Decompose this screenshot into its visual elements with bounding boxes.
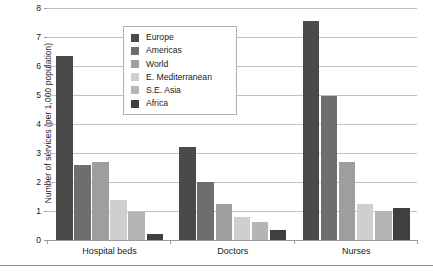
y-tick-label: 2	[36, 178, 41, 187]
bar-group	[303, 8, 410, 240]
y-tick-label: 7	[36, 33, 41, 42]
legend-swatch-icon	[131, 86, 139, 94]
legend-item: Americas	[124, 44, 236, 57]
y-tick-mark	[44, 66, 47, 67]
legend-item-label: World	[146, 60, 168, 69]
bar	[56, 56, 73, 240]
legend-item: S.E. Asia	[124, 84, 236, 97]
bar	[252, 222, 269, 240]
footer-rule	[0, 265, 433, 266]
y-tick-label: 4	[36, 120, 41, 129]
y-tick-mark	[44, 124, 47, 125]
bar	[375, 211, 392, 240]
bar	[216, 204, 233, 240]
y-tick-mark	[44, 182, 47, 183]
legend-swatch-icon	[131, 60, 139, 68]
bar	[179, 147, 196, 240]
y-tick-mark	[44, 211, 47, 212]
legend-item-label: E. Mediterranean	[146, 73, 212, 82]
y-tick-mark	[44, 95, 47, 96]
bar	[393, 208, 410, 240]
legend-item: World	[124, 57, 236, 70]
x-axis-label-hospital-beds: Hospital beds	[82, 246, 137, 256]
bar	[147, 234, 164, 240]
legend-swatch-icon	[131, 34, 139, 42]
bar	[357, 204, 374, 240]
bar	[128, 212, 145, 240]
y-tick-label: 0	[36, 236, 41, 245]
legend-item: Africa	[124, 97, 236, 110]
bar	[197, 182, 214, 240]
bar	[303, 21, 320, 240]
bar	[92, 162, 109, 240]
y-tick-label: 3	[36, 149, 41, 158]
y-tick-label: 6	[36, 62, 41, 71]
x-axis-baseline	[47, 240, 417, 241]
legend-item-label: S.E. Asia	[146, 86, 181, 95]
bar-chart: Number of services (per 1,000 population…	[0, 0, 433, 276]
chart-legend: EuropeAmericasWorldE. MediterraneanS.E. …	[123, 26, 237, 115]
y-tick-label: 5	[36, 91, 41, 100]
bar	[234, 217, 251, 240]
legend-item-label: Europe	[146, 33, 174, 42]
x-tick-mark	[417, 240, 418, 244]
y-tick-mark	[44, 153, 47, 154]
bar	[270, 230, 287, 240]
legend-swatch-icon	[131, 47, 139, 55]
legend-swatch-icon	[131, 73, 139, 81]
x-tick-mark	[47, 240, 48, 244]
x-axis-label-doctors: Doctors	[217, 246, 248, 256]
bar	[321, 96, 338, 240]
bar	[339, 162, 356, 240]
x-tick-mark	[294, 240, 295, 244]
legend-item-label: Americas	[146, 46, 182, 55]
legend-item: Europe	[124, 31, 236, 44]
y-tick-mark	[44, 8, 47, 9]
legend-item: E. Mediterranean	[124, 71, 236, 84]
bar	[110, 200, 127, 240]
x-axis-label-nurses: Nurses	[342, 246, 371, 256]
legend-item-label: Africa	[146, 99, 168, 108]
legend-swatch-icon	[131, 100, 139, 108]
x-tick-mark	[170, 240, 171, 244]
y-tick-label: 8	[36, 4, 41, 13]
y-tick-label: 1	[36, 207, 41, 216]
bar	[74, 165, 91, 240]
y-tick-mark	[44, 37, 47, 38]
